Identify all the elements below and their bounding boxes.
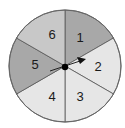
sector-label-4: 4 (48, 89, 55, 104)
spinner-pivot (62, 64, 68, 70)
sector-label-5: 5 (31, 57, 38, 72)
sector-label-3: 3 (76, 89, 83, 104)
sector-label-6: 6 (48, 27, 55, 42)
spinner-diagram: 1 2 3 4 5 6 (0, 0, 125, 128)
sector-label-2: 2 (94, 59, 101, 74)
sector-label-1: 1 (76, 30, 83, 45)
